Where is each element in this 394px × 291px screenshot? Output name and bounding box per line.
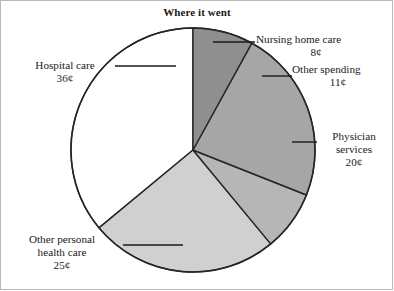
slice-label-nursing-home-care-name: Nursing home care bbox=[256, 33, 341, 45]
slice-label-hospital-care-value: 36¢ bbox=[18, 72, 112, 85]
slice-label-hospital-care-name: Hospital care bbox=[35, 59, 94, 71]
slice-label-nursing-home-care-value: 8¢ bbox=[256, 46, 376, 59]
slice-label-hospital-care: Hospital care 36¢ bbox=[18, 59, 112, 85]
slice-label-other-personal-health-care-name-1: Other personal bbox=[29, 233, 95, 245]
slice-label-other-personal-health-care-value: 25¢ bbox=[4, 259, 120, 272]
slice-label-other-personal-health-care: Other personal health care 25¢ bbox=[4, 233, 120, 272]
slice-label-physician-services: Physician services 20¢ bbox=[318, 130, 390, 169]
slice-label-nursing-home-care: Nursing home care 8¢ bbox=[256, 33, 392, 59]
slice-label-other-spending-name: Other spending bbox=[292, 63, 361, 75]
slice-label-other-spending: Other spending 11¢ bbox=[292, 63, 394, 89]
slice-label-physician-services-name-2: services bbox=[318, 143, 390, 156]
slice-label-other-personal-health-care-name-2: health care bbox=[4, 246, 120, 259]
slice-label-physician-services-value: 20¢ bbox=[318, 156, 390, 169]
slice-label-other-spending-value: 11¢ bbox=[292, 76, 384, 89]
pie-chart-figure: Where it went Hospital care 36¢ Other pe… bbox=[0, 0, 394, 291]
slice-label-physician-services-name-1: Physician bbox=[332, 130, 376, 142]
